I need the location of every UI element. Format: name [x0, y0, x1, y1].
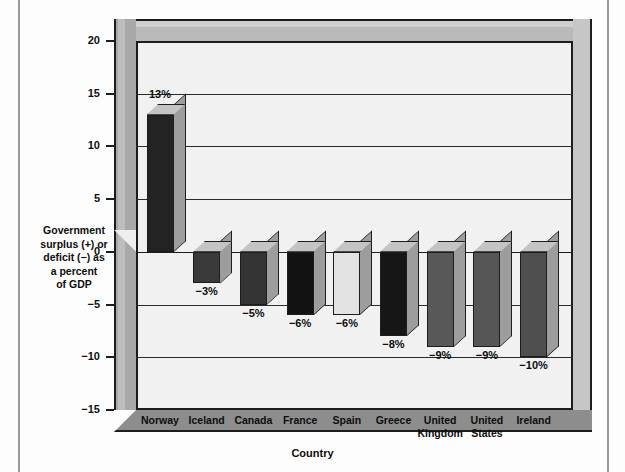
plot-left-wall — [114, 19, 136, 410]
plot-right-wall — [573, 19, 592, 410]
y-axis-tick — [106, 40, 114, 42]
bar-front-face — [473, 252, 500, 347]
bar-value-label: 13% — [133, 88, 187, 100]
bar-side-face — [174, 93, 186, 252]
x-axis-category-line: States — [449, 427, 525, 440]
y-axis-tick-label: −15 — [66, 403, 100, 415]
y-axis-tick — [106, 356, 114, 358]
bar-front-face — [147, 115, 174, 252]
bar-value-label: −10% — [507, 359, 561, 371]
y-axis-tick-label: 20 — [66, 34, 100, 46]
y-axis-tick — [106, 93, 114, 95]
y-axis-tick — [106, 409, 114, 411]
x-axis-title: Country — [0, 447, 625, 459]
y-axis-tick — [106, 198, 114, 200]
y-axis-title-line: a percent — [24, 265, 124, 279]
plot-top-wall — [114, 19, 573, 41]
y-axis-tick-label: 0 — [66, 245, 100, 257]
bar-front-face — [520, 252, 547, 357]
gridline — [136, 146, 573, 147]
figure-left-rule — [18, 0, 20, 472]
gridline — [136, 94, 573, 95]
bar-front-face — [333, 252, 360, 315]
y-axis-tick — [106, 304, 114, 306]
y-axis-tick-label: 10 — [66, 139, 100, 151]
y-axis-tick-label: −5 — [66, 298, 100, 310]
bar-front-face — [193, 252, 220, 284]
figure-right-rule — [607, 0, 609, 472]
y-axis-tick — [106, 145, 114, 147]
y-axis-tick-label: 15 — [66, 87, 100, 99]
x-axis-category-label: Ireland — [496, 414, 572, 427]
y-axis-title: Government surplus (+) or deficit (−) as… — [24, 224, 124, 292]
bar-front-face — [287, 252, 314, 315]
y-axis-tick-label: 5 — [66, 192, 100, 204]
y-axis-tick-label: −10 — [66, 350, 100, 362]
x-axis-category-line: Ireland — [496, 414, 572, 427]
y-axis-title-line: Government — [24, 224, 124, 238]
bar-value-label: −6% — [320, 317, 374, 329]
gridline — [136, 199, 573, 200]
plot-area: 13%−3%−5%−6%−6%−8%−9%−9%−10% — [136, 41, 573, 410]
bar-front-face — [240, 252, 267, 305]
y-axis-tick — [106, 251, 114, 253]
chart-figure: Government surplus (+) or deficit (−) as… — [0, 0, 625, 472]
bar-front-face — [380, 252, 407, 336]
y-axis-title-line: of GDP — [24, 278, 124, 292]
bar-front-face — [427, 252, 454, 347]
bar-value-label: −3% — [180, 285, 234, 297]
